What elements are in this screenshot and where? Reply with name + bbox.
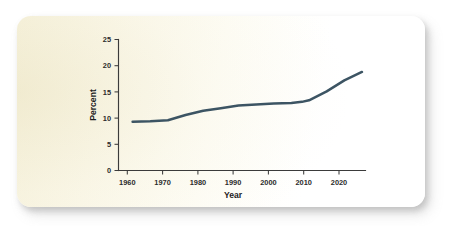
data-line-percent [133, 72, 362, 122]
y-tick-label: 25 [103, 35, 111, 44]
y-tick-label: 10 [103, 114, 111, 123]
y-tick-label: 5 [107, 140, 111, 149]
x-axis-title: Year [224, 190, 243, 200]
x-tick-marks [127, 171, 339, 175]
y-tick-label: 15 [103, 88, 111, 97]
page: 0 5 10 15 20 25 1960 1970 198 [0, 0, 461, 226]
y-axis-title: Percent [88, 89, 98, 121]
x-tick-label: 2000 [260, 178, 276, 187]
chart-card: 0 5 10 15 20 25 1960 1970 198 [17, 16, 425, 207]
x-tick-label: 1960 [119, 178, 135, 187]
x-tick-label: 1990 [225, 178, 241, 187]
x-tick-label: 2010 [295, 178, 311, 187]
line-chart: 0 5 10 15 20 25 1960 1970 198 [17, 16, 425, 207]
y-tick-marks [115, 40, 119, 171]
x-tick-labels: 1960 1970 1980 1990 2000 2010 2020 [119, 178, 347, 187]
y-tick-label: 20 [103, 61, 111, 70]
y-tick-label: 0 [107, 166, 111, 175]
x-tick-label: 1970 [154, 178, 170, 187]
x-tick-label: 1980 [190, 178, 206, 187]
y-tick-labels: 0 5 10 15 20 25 [103, 35, 111, 175]
x-tick-label: 2020 [331, 178, 347, 187]
